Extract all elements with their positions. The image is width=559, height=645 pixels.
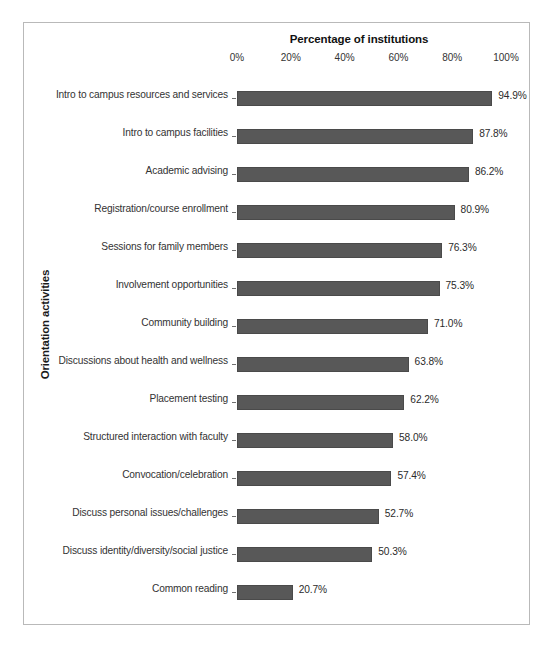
category-label: Discuss identity/diversity/social justic… — [63, 545, 228, 556]
y-axis-tick-mark — [232, 136, 236, 137]
bar[interactable] — [237, 585, 293, 600]
bar-row[interactable]: Convocation/celebration57.4% — [237, 460, 506, 498]
bar-value-label: 63.8% — [415, 356, 443, 367]
y-axis-tick-mark — [232, 554, 236, 555]
category-label: Intro to campus resources and services — [56, 89, 228, 100]
x-axis-tick-5: 100% — [493, 52, 519, 63]
bar[interactable] — [237, 91, 492, 106]
x-axis-tick-labels: 0%20%40%60%80%100% — [24, 52, 531, 68]
x-axis-tick-2: 40% — [335, 52, 355, 63]
bar-row[interactable]: Registration/course enrollment80.9% — [237, 194, 506, 232]
bar-row[interactable]: Involvement opportunities75.3% — [237, 270, 506, 308]
bar[interactable] — [237, 395, 404, 410]
bar-row[interactable]: Sessions for family members76.3% — [237, 232, 506, 270]
bar[interactable] — [237, 167, 469, 182]
bar-value-label: 50.3% — [378, 546, 406, 557]
x-axis-tick-4: 80% — [442, 52, 462, 63]
bar[interactable] — [237, 433, 393, 448]
bar[interactable] — [237, 243, 442, 258]
bar[interactable] — [237, 547, 372, 562]
chart-title: Percentage of institutions — [214, 33, 504, 45]
y-axis-tick-mark — [232, 250, 236, 251]
category-label: Registration/course enrollment — [94, 203, 228, 214]
plot-area: Intro to campus resources and services94… — [237, 80, 506, 610]
y-axis-tick-mark — [232, 212, 236, 213]
category-label: Academic advising — [146, 165, 228, 176]
category-label: Discuss personal issues/challenges — [72, 507, 228, 518]
y-axis-tick-mark — [232, 440, 236, 441]
bar-value-label: 57.4% — [397, 470, 425, 481]
bar-row[interactable]: Discussions about health and wellness63.… — [237, 346, 506, 384]
bar[interactable] — [237, 357, 409, 372]
bar-row[interactable]: Intro to campus resources and services94… — [237, 80, 506, 118]
y-axis-tick-mark — [232, 288, 236, 289]
y-axis-tick-mark — [232, 174, 236, 175]
bar-value-label: 75.3% — [446, 280, 474, 291]
bar-value-label: 52.7% — [385, 508, 413, 519]
category-label: Intro to campus facilities — [123, 127, 228, 138]
bar-value-label: 94.9% — [498, 90, 526, 101]
category-label: Community building — [141, 317, 228, 328]
bar-value-label: 76.3% — [448, 242, 476, 253]
x-axis-tick-0: 0% — [230, 52, 244, 63]
bar-value-label: 80.9% — [461, 204, 489, 215]
category-label: Structured interaction with faculty — [83, 431, 228, 442]
y-axis-tick-mark — [232, 326, 236, 327]
bar-row[interactable]: Discuss identity/diversity/social justic… — [237, 536, 506, 574]
y-axis-tick-mark — [232, 98, 236, 99]
category-label: Common reading — [152, 583, 228, 594]
bar[interactable] — [237, 319, 428, 334]
bar-row[interactable]: Structured interaction with faculty58.0% — [237, 422, 506, 460]
bar-value-label: 71.0% — [434, 318, 462, 329]
bar-row[interactable]: Community building71.0% — [237, 308, 506, 346]
y-axis-tick-mark — [232, 592, 236, 593]
category-label: Discussions about health and wellness — [59, 355, 228, 366]
bar-value-label: 58.0% — [399, 432, 427, 443]
y-axis-tick-mark — [232, 402, 236, 403]
bar-value-label: 20.7% — [299, 584, 327, 595]
y-axis-tick-mark — [232, 478, 236, 479]
bar-row[interactable]: Common reading20.7% — [237, 574, 506, 612]
category-label: Involvement opportunities — [116, 279, 228, 290]
bar[interactable] — [237, 281, 440, 296]
y-axis-tick-mark — [232, 516, 236, 517]
category-label: Placement testing — [150, 393, 228, 404]
bar-value-label: 86.2% — [475, 166, 503, 177]
category-label: Convocation/celebration — [122, 469, 228, 480]
y-axis-tick-mark — [232, 364, 236, 365]
bar-value-label: 87.8% — [479, 128, 507, 139]
x-axis-tick-3: 60% — [388, 52, 408, 63]
category-label: Sessions for family members — [101, 241, 228, 252]
y-axis-title: Orientation activities — [34, 23, 56, 626]
bar[interactable] — [237, 471, 391, 486]
bar[interactable] — [237, 205, 455, 220]
bar-row[interactable]: Discuss personal issues/challenges52.7% — [237, 498, 506, 536]
bar-row[interactable]: Placement testing62.2% — [237, 384, 506, 422]
chart-container: Orientation activities Percentage of ins… — [23, 22, 530, 625]
bar[interactable] — [237, 509, 379, 524]
bar-row[interactable]: Intro to campus facilities87.8% — [237, 118, 506, 156]
x-axis-tick-1: 20% — [281, 52, 301, 63]
bar[interactable] — [237, 129, 473, 144]
bar-value-label: 62.2% — [410, 394, 438, 405]
bar-row[interactable]: Academic advising86.2% — [237, 156, 506, 194]
